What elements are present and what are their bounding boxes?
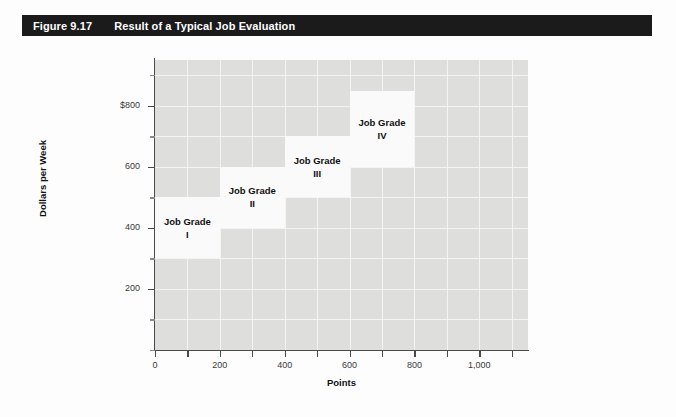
gridline-vertical (317, 60, 318, 350)
x-axis-tick-label: 400 (260, 360, 310, 370)
gridline-vertical (285, 60, 286, 350)
x-axis-tick-label: 0 (130, 360, 180, 370)
chart-area: Job GradeIJob GradeIIJob GradeIIIJob Gra… (0, 45, 676, 405)
x-axis-tick-label: 1,000 (454, 360, 504, 370)
figure-title: Result of a Typical Job Evaluation (114, 20, 295, 32)
x-axis-tick (155, 351, 156, 357)
x-axis-tick-label: 600 (325, 360, 375, 370)
gridline-horizontal (155, 75, 528, 76)
y-axis-tick-label: 400 (100, 222, 140, 232)
x-axis-tick (187, 351, 188, 357)
x-axis-tick (479, 351, 480, 357)
y-axis-tick-label: 200 (100, 283, 140, 293)
x-axis-tick (252, 351, 253, 357)
y-axis-tick-label: 600 (100, 161, 140, 171)
gridline-vertical (479, 60, 480, 350)
x-axis-tick (220, 351, 221, 357)
x-axis-title: Points (155, 377, 528, 388)
y-axis-line (154, 58, 155, 351)
y-axis-tick-minor (150, 136, 155, 137)
gridline-vertical (414, 60, 415, 350)
x-axis-tick-label: 800 (389, 360, 439, 370)
y-axis-tick (148, 106, 155, 107)
plot-area: Job GradeIJob GradeIIJob GradeIIIJob Gra… (155, 60, 528, 350)
gridline-vertical (512, 60, 513, 350)
x-axis-tick (350, 351, 351, 357)
job-grade-box: Job GradeIV (350, 91, 415, 167)
job-grade-box: Job GradeIII (285, 136, 350, 197)
y-axis-tick-minor (150, 319, 155, 320)
job-grade-roman: I (186, 228, 189, 241)
y-axis-tick-minor (150, 197, 155, 198)
y-axis-title: Dollars per Week (37, 119, 48, 239)
job-grade-label: Job Grade (359, 116, 406, 129)
job-grade-label: Job Grade (164, 215, 211, 228)
x-axis-tick (414, 351, 415, 357)
x-axis-tick-label: 200 (195, 360, 245, 370)
y-axis-tick-label: $800 (100, 100, 140, 110)
job-grade-roman: III (313, 167, 321, 180)
job-grade-label: Job Grade (229, 184, 276, 197)
gridline-horizontal (155, 258, 528, 259)
figure-container: Figure 9.17 Result of a Typical Job Eval… (0, 0, 676, 417)
y-axis-tick (148, 167, 155, 168)
y-axis-tick-minor (150, 258, 155, 259)
x-axis-tick (285, 351, 286, 357)
job-grade-roman: IV (378, 129, 387, 142)
job-grade-box: Job GradeI (155, 197, 220, 258)
x-axis-tick (382, 351, 383, 357)
job-grade-roman: II (250, 197, 255, 210)
figure-title-bar: Figure 9.17 Result of a Typical Job Eval… (22, 15, 652, 36)
gridline-vertical (447, 60, 448, 350)
gridline-horizontal (155, 319, 528, 320)
gridline-horizontal (155, 106, 528, 107)
job-grade-label: Job Grade (294, 154, 341, 167)
x-axis-line (154, 350, 529, 351)
x-axis-tick (512, 351, 513, 357)
job-grade-box: Job GradeII (220, 167, 285, 228)
gridline-horizontal (155, 289, 528, 290)
y-axis-tick-minor (150, 75, 155, 76)
figure-number: Figure 9.17 (33, 20, 92, 32)
y-axis-tick (148, 228, 155, 229)
y-axis-tick (148, 289, 155, 290)
x-axis-tick (317, 351, 318, 357)
x-axis-tick (447, 351, 448, 357)
